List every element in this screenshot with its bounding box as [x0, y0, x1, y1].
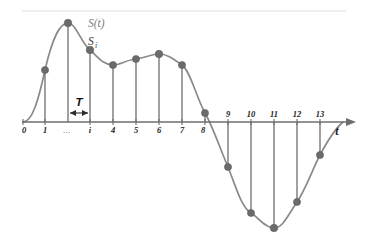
sample-dot-1 [41, 66, 48, 73]
tick-label-13: 13 [316, 109, 325, 119]
tick-label-11: 11 [270, 109, 278, 119]
signal-sampling-figure: T 0 1 ... i 4 5 6 7 8 9 10 11 12 13 t S(… [0, 0, 368, 251]
tick-label-5: 5 [134, 125, 139, 135]
tick-label-4: 4 [110, 125, 115, 135]
sample-dot-13 [316, 151, 323, 158]
period-measure-annotation: T [70, 96, 88, 116]
tick-label-0: 0 [22, 125, 27, 135]
tick-label-12: 12 [293, 109, 302, 119]
sample-value-label-base: S [88, 35, 94, 47]
tick-label-ellipsis: ... [63, 125, 71, 135]
sample-dot-8 [201, 109, 208, 116]
sampling-chart: T 0 1 ... i 4 5 6 7 8 9 10 11 12 13 t S(… [0, 0, 368, 251]
tick-label-i: i [89, 125, 92, 135]
period-label: T [75, 96, 83, 108]
sample-dot-6 [155, 50, 163, 58]
tick-label-1: 1 [43, 125, 47, 135]
period-arrow-left-icon [70, 110, 76, 116]
sample-dot-2 [64, 19, 72, 27]
tick-label-6: 6 [157, 125, 162, 135]
time-axis-arrow-icon [346, 118, 356, 126]
sample-dot-10 [247, 209, 254, 216]
tick-label-9: 9 [226, 109, 231, 119]
sample-value-label-subscript: i [95, 41, 97, 50]
period-arrow-right-icon [82, 110, 88, 116]
sample-dot-7 [178, 61, 185, 68]
sample-dot-9 [224, 163, 231, 170]
tick-label-7: 7 [180, 125, 185, 135]
sample-dot-11 [270, 224, 278, 232]
sample-dot-3 [86, 46, 94, 54]
sample-dot-12 [293, 198, 300, 205]
tick-label-8: 8 [201, 125, 206, 135]
sample-dot-5 [132, 55, 139, 62]
tick-label-10: 10 [247, 109, 256, 119]
continuous-signal-label: S(t) [88, 17, 105, 30]
sample-dot-4 [109, 61, 116, 68]
